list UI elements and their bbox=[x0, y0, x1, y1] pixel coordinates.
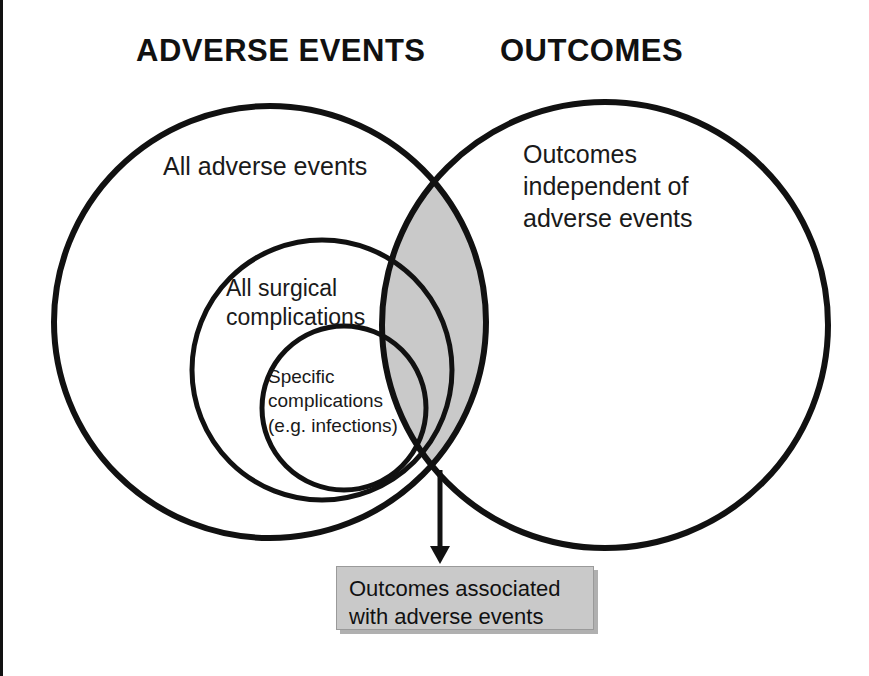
label-specific-line-1: Specific bbox=[268, 365, 428, 389]
callout-text: Outcomes associated with adverse events bbox=[349, 575, 587, 631]
callout-line-1: Outcomes associated bbox=[349, 575, 587, 603]
venn-diagram-figure: ADVERSE EVENTS OUTCOMES All adverse even… bbox=[0, 0, 869, 676]
callout-arrow-head-icon bbox=[430, 546, 450, 564]
label-outcomes-independent-line-3: adverse events bbox=[523, 202, 753, 234]
heading-adverse-events: ADVERSE EVENTS bbox=[136, 33, 426, 69]
label-outcomes-independent-line-1: Outcomes bbox=[523, 138, 753, 170]
label-specific-line-2: complications bbox=[268, 389, 428, 413]
label-all-surgical-complications: All surgical complications bbox=[226, 274, 406, 333]
heading-outcomes: OUTCOMES bbox=[500, 33, 683, 69]
callout-line-2: with adverse events bbox=[349, 603, 587, 631]
label-all-adverse-events: All adverse events bbox=[163, 150, 367, 182]
label-specific-line-3: (e.g. infections) bbox=[268, 414, 428, 438]
label-all-surgical-line-1: All surgical bbox=[226, 274, 406, 303]
label-outcomes-independent-line-2: independent of bbox=[523, 170, 753, 202]
label-outcomes-independent: Outcomes independent of adverse events bbox=[523, 138, 753, 234]
label-all-surgical-line-2: complications bbox=[226, 303, 406, 332]
callout-box: Outcomes associated with adverse events bbox=[336, 566, 594, 630]
label-specific-complications: Specific complications (e.g. infections) bbox=[268, 365, 428, 438]
